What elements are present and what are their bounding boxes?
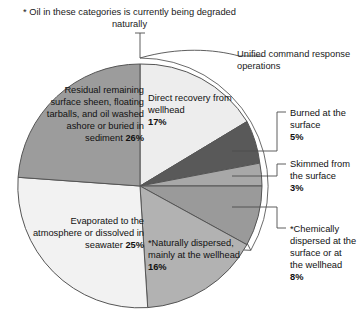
label-chem-text: *Chemically dispersed at the surface or … bbox=[290, 224, 356, 270]
label-skimmed: Skimmed from the surface 3% bbox=[290, 158, 356, 194]
label-direct-pct: 17% bbox=[148, 117, 167, 127]
pie-chart-figure: * Oil in these categories is currently b… bbox=[0, 0, 357, 328]
label-skimmed-pct: 3% bbox=[290, 183, 303, 193]
label-residual-pct: 26% bbox=[125, 133, 144, 143]
footnote-top-text: * Oil in these categories is currently b… bbox=[22, 6, 237, 30]
footnote-leader-line bbox=[135, 33, 239, 58]
label-evaporated-pct: 25% bbox=[125, 240, 144, 250]
unified-command-callout: Unified command response operations bbox=[237, 48, 355, 72]
label-burned-text: Burned at the surface bbox=[290, 108, 346, 130]
label-chem-pct: 8% bbox=[290, 272, 303, 282]
label-natural-pct: 16% bbox=[148, 262, 167, 272]
label-direct-text: Direct recovery from wellhead bbox=[148, 93, 232, 115]
label-burned: Burned at the surface 5% bbox=[290, 107, 356, 143]
label-natural-text: *Naturally dispersed, mainly at the well… bbox=[148, 238, 240, 260]
label-evaporated: Evaporated to the atmosphere or dissolve… bbox=[30, 215, 144, 251]
label-residual: Residual remaining surface sheen, floati… bbox=[38, 84, 144, 144]
label-naturally-dispersed: *Naturally dispersed, mainly at the well… bbox=[148, 237, 242, 273]
label-chemically-dispersed: *Chemically dispersed at the surface or … bbox=[290, 223, 357, 283]
label-direct-recovery: Direct recovery from wellhead 17% bbox=[148, 92, 232, 128]
label-burned-pct: 5% bbox=[290, 132, 303, 142]
label-skimmed-text: Skimmed from the surface bbox=[290, 159, 350, 181]
